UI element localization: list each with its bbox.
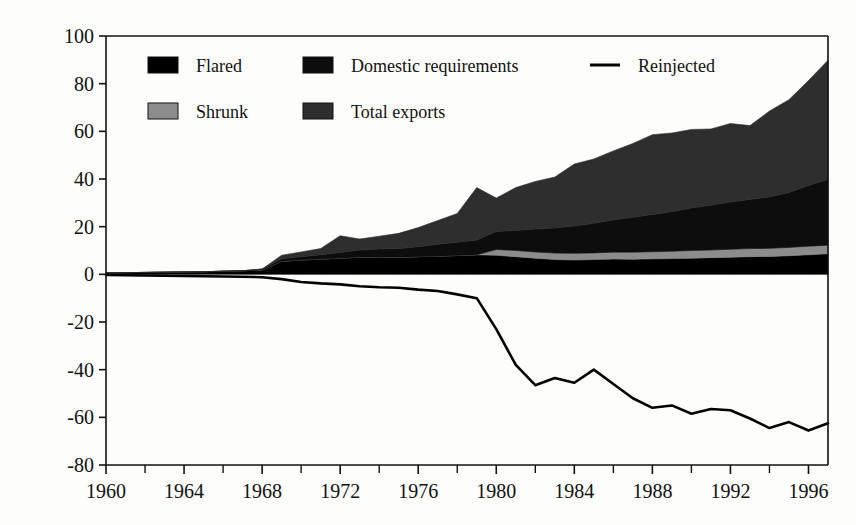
y-tick-label: -40 <box>67 359 94 381</box>
y-tick-label: -80 <box>67 454 94 476</box>
x-tick-label: 1968 <box>242 480 282 502</box>
x-axis-minor-ticks <box>145 465 769 473</box>
legend: FlaredDomestic requirementsReinjectedShr… <box>148 56 715 122</box>
chart-root: billion cubic metres 100806040200-20-40-… <box>0 0 856 525</box>
legend-item-flared[interactable]: Flared <box>148 56 242 76</box>
legend-item-total-exports[interactable]: Total exports <box>303 102 445 122</box>
y-tick-label: 0 <box>84 263 94 285</box>
x-tick-label: 1960 <box>86 480 126 502</box>
y-tick-label: -20 <box>67 311 94 333</box>
x-tick-label: 1964 <box>164 480 204 502</box>
y-tick-label: 20 <box>74 216 94 238</box>
legend-label-flared: Flared <box>196 56 242 76</box>
x-tick-label: 1972 <box>320 480 360 502</box>
legend-label-reinjected: Reinjected <box>638 56 715 76</box>
legend-item-reinjected[interactable]: Reinjected <box>590 56 715 76</box>
x-tick-label: 1992 <box>710 480 750 502</box>
y-tick-label: 40 <box>74 168 94 190</box>
legend-item-domestic-requirements[interactable]: Domestic requirements <box>303 56 518 76</box>
legend-swatch-domestic-requirements <box>303 57 333 73</box>
x-tick-label: 1980 <box>476 480 516 502</box>
legend-swatch-shrunk <box>148 103 178 119</box>
y-tick-label: -60 <box>67 406 94 428</box>
legend-swatch-total-exports <box>303 103 333 119</box>
legend-swatch-flared <box>148 57 178 73</box>
line-reinjected <box>106 275 828 430</box>
legend-item-shrunk[interactable]: Shrunk <box>148 102 248 122</box>
x-tick-label: 1976 <box>398 480 438 502</box>
area-chart: 100806040200-20-40-60-801960196419681972… <box>0 0 856 525</box>
y-tick-label: 80 <box>74 73 94 95</box>
legend-label-total-exports: Total exports <box>351 102 445 122</box>
y-tick-label: 100 <box>64 25 94 47</box>
stacked-areas <box>106 60 828 274</box>
legend-label-domestic-requirements: Domestic requirements <box>351 56 518 76</box>
y-tick-label: 60 <box>74 120 94 142</box>
y-axis-ticks: 100806040200-20-40-60-80 <box>64 25 106 476</box>
x-tick-label: 1988 <box>632 480 672 502</box>
x-tick-label: 1984 <box>554 480 594 502</box>
x-tick-label: 1996 <box>788 480 828 502</box>
legend-label-shrunk: Shrunk <box>196 102 248 122</box>
